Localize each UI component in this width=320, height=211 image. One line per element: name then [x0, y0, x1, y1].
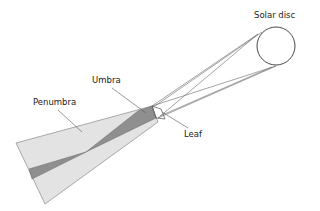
- label-umbra: Umbra: [92, 76, 121, 85]
- label-solar-disc: Solar disc: [254, 11, 295, 20]
- solar-disc: [257, 27, 295, 65]
- label-leaf: Leaf: [184, 130, 202, 139]
- label-penumbra: Penumbra: [33, 98, 76, 107]
